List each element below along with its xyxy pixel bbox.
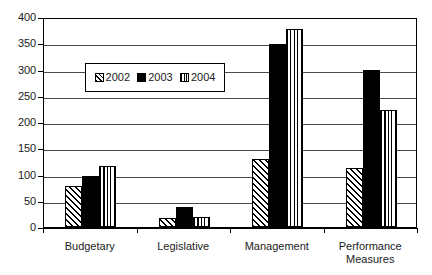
x-tick-4 xyxy=(417,228,418,233)
legend-item-2002: 2002 xyxy=(95,72,130,83)
y-axis-label-wrap-300: 300 xyxy=(0,65,36,76)
plot-area xyxy=(43,18,417,228)
x-axis-label-performance-measures: PerformanceMeasures xyxy=(324,240,418,266)
x-tick-2 xyxy=(230,228,231,233)
legend-item-2004: 2004 xyxy=(180,72,215,83)
y-axis-label-0: 0 xyxy=(2,222,36,233)
y-axis-label-wrap-200: 200 xyxy=(0,117,36,128)
y-axis-label-200: 200 xyxy=(2,117,36,128)
bar-performance-measures-2003 xyxy=(363,70,380,228)
bar-management-2004 xyxy=(286,29,303,227)
diagonal-hatch-swatch-icon xyxy=(95,73,104,82)
chart-legend: 2002 2003 2004 xyxy=(85,63,225,92)
bar-budgetary-2003 xyxy=(82,176,99,227)
y-axis-label-wrap-100: 100 xyxy=(0,170,36,181)
y-axis-label-300: 300 xyxy=(2,65,36,76)
legend-label-2002: 2002 xyxy=(106,72,130,83)
bar-budgetary-2004 xyxy=(99,166,116,227)
gridline-250 xyxy=(44,98,416,99)
y-axis-line xyxy=(43,18,44,229)
x-axis-label-budgetary: Budgetary xyxy=(43,240,137,253)
gridline-200 xyxy=(44,124,416,125)
y-axis-label-wrap-50: 50 xyxy=(0,196,36,207)
x-tick-1 xyxy=(137,228,138,233)
x-tick-0 xyxy=(43,228,44,233)
y-axis-label-wrap-250: 250 xyxy=(0,91,36,102)
y-axis-label-400: 400 xyxy=(2,12,36,23)
y-axis-label-350: 350 xyxy=(2,38,36,49)
gridline-350 xyxy=(44,45,416,46)
x-tick-3 xyxy=(324,228,325,233)
x-axis-label-management: Management xyxy=(230,240,324,253)
vertical-lines-swatch-icon xyxy=(180,73,189,82)
bar-management-2003 xyxy=(269,44,286,227)
legend-label-2004: 2004 xyxy=(191,72,215,83)
bar-legislative-2004 xyxy=(193,217,210,228)
y-axis-label-100: 100 xyxy=(2,170,36,181)
bar-legislative-2002 xyxy=(159,218,176,227)
bar-management-2002 xyxy=(252,159,269,227)
y-axis-label-250: 250 xyxy=(2,91,36,102)
solid-black-swatch-icon xyxy=(137,73,146,82)
y-axis-label-wrap-350: 350 xyxy=(0,38,36,49)
y-axis-label-wrap-400: 400 xyxy=(0,12,36,23)
legend-label-2003: 2003 xyxy=(148,72,172,83)
y-axis-label-50: 50 xyxy=(2,196,36,207)
bar-legislative-2003 xyxy=(176,207,193,227)
bar-budgetary-2002 xyxy=(65,186,82,227)
bar-chart: 050100150200250300350400 BudgetaryLegisl… xyxy=(0,0,432,275)
y-axis-label-wrap-150: 150 xyxy=(0,143,36,154)
y-axis-label-wrap-0: 0 xyxy=(0,222,36,233)
gridline-150 xyxy=(44,150,416,151)
legend-item-2003: 2003 xyxy=(137,72,172,83)
bar-performance-measures-2004 xyxy=(380,110,397,227)
y-axis-label-150: 150 xyxy=(2,143,36,154)
bar-performance-measures-2002 xyxy=(346,168,363,227)
x-axis-label-legislative: Legislative xyxy=(137,240,231,253)
